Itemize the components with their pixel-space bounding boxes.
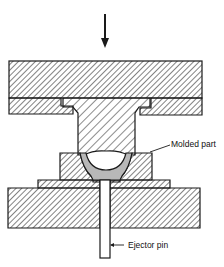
molding-diagram <box>0 0 224 267</box>
force-arrow-icon <box>101 14 109 48</box>
ejector-pin-label: Ejector pin <box>128 240 168 250</box>
ejector-pin-leader <box>110 243 124 247</box>
ejector-pin <box>100 180 110 258</box>
upper-platen <box>9 61 202 98</box>
molded-part-leader <box>150 145 170 152</box>
punch <box>63 98 150 155</box>
molded-part-label: Molded part <box>171 139 216 149</box>
